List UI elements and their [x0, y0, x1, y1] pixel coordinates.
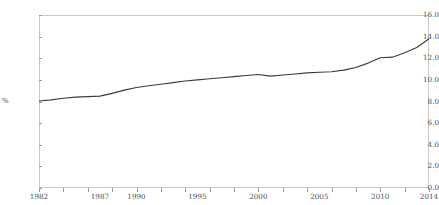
y-tick-label: 8.0: [405, 98, 439, 105]
x-tick-mark: [234, 188, 235, 192]
x-tick-mark: [307, 188, 308, 192]
x-tick-label: 2000: [249, 193, 267, 201]
y-tick-mark: [39, 80, 42, 81]
x-tick-mark: [405, 188, 406, 192]
y-tick-label: 0.0: [405, 184, 439, 191]
x-tick-mark: [112, 188, 113, 192]
y-tick-label: 14.0: [405, 33, 439, 40]
y-tick-label: 10.0: [405, 76, 439, 83]
y-tick-mark: [39, 123, 42, 124]
x-tick-label: 2010: [371, 193, 389, 201]
y-tick-mark: [39, 166, 42, 167]
y-tick-label: 12.0: [405, 54, 439, 61]
x-tick-label: 1982: [30, 193, 48, 201]
y-tick-mark: [39, 15, 42, 16]
y-tick-label: 4.0: [405, 141, 439, 148]
y-tick-mark: [39, 145, 42, 146]
y-tick-mark: [39, 102, 42, 103]
x-tick-mark: [332, 188, 333, 192]
y-tick-label: 16.0: [405, 11, 439, 18]
line-series-plot: [39, 15, 429, 188]
y-tick-label: 6.0: [405, 119, 439, 126]
chart-container: % 0.02.04.06.08.010.012.014.016.0 198219…: [0, 0, 439, 205]
x-tick-label: 2005: [310, 193, 328, 201]
x-tick-mark: [161, 188, 162, 192]
x-tick-label: 2014: [420, 193, 438, 201]
x-tick-label: 1987: [91, 193, 109, 201]
y-tick-mark: [39, 58, 42, 59]
x-tick-mark: [356, 188, 357, 192]
x-tick-mark: [210, 188, 211, 192]
x-tick-label: 1990: [127, 193, 145, 201]
data-line: [39, 39, 429, 101]
x-tick-mark: [283, 188, 284, 192]
y-tick-mark: [39, 37, 42, 38]
y-axis-title: %: [2, 97, 9, 105]
x-tick-mark: [185, 188, 186, 192]
x-tick-label: 1995: [188, 193, 206, 201]
y-tick-label: 2.0: [405, 162, 439, 169]
x-tick-mark: [88, 188, 89, 192]
x-tick-mark: [63, 188, 64, 192]
